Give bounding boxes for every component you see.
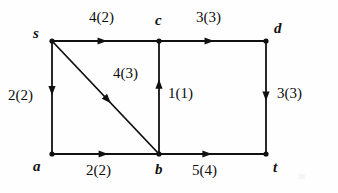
node-dot-c [156,38,161,43]
arrowhead-a-b [99,150,109,157]
node-label-c: c [155,13,162,28]
edge-line-group [52,41,266,154]
node-label-s: s [33,26,39,41]
node-dot-d [263,38,268,43]
scan-speck [299,174,305,179]
edge-label-s-b: 4(3) [113,66,138,81]
arrowhead-d-t [262,92,269,102]
arrowhead-c-d [205,37,215,44]
edge-label-b-c: 1(1) [168,86,193,101]
node-dot-b [156,151,161,156]
diagram-canvas: scdabt 4(2)3(3)2(2)4(3)1(1)3(3)2(2)5(4) [0,0,338,193]
node-label-a: a [33,159,41,174]
edge-label-a-b: 2(2) [86,163,111,178]
node-dot-t [263,151,268,156]
node-label-t: t [273,160,277,175]
edge-label-b-t: 5(4) [192,163,217,178]
arrowhead-b-c [155,79,162,89]
node-dot-s [49,38,54,43]
node-label-b: b [155,162,163,177]
arrowhead-s-a [48,86,55,96]
edge-label-s-c: 4(2) [89,10,114,25]
node-label-d: d [274,21,282,36]
edge-label-s-a: 2(2) [8,88,33,103]
arrowhead-b-t [202,150,212,157]
node-dot-a [49,151,54,156]
edge-label-c-d: 3(3) [196,10,221,25]
arrowhead-s-c [98,37,108,44]
edge-label-d-t: 3(3) [277,86,302,101]
